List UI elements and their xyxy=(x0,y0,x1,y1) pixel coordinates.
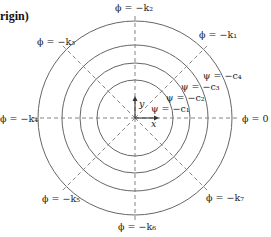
psi-label-4: ψ = −c₄ xyxy=(203,70,242,81)
psi-label-1: ψ = −c₁ xyxy=(151,103,190,114)
x-axis-label: x xyxy=(151,118,157,129)
psi-label-2: ψ = −c₂ xyxy=(166,92,205,103)
phi-label-5: ϕ = −k₅ xyxy=(42,193,80,204)
phi-label-4: ϕ = −k₄ xyxy=(0,113,38,124)
phi-label-7: ϕ = −k₇ xyxy=(206,192,244,203)
psi-label-3: ψ = −c₃ xyxy=(181,81,220,92)
phi-label-2: ϕ = −k₂ xyxy=(115,2,153,13)
y-axis-label: y xyxy=(138,98,145,109)
phi-label-3: ϕ = −k₃ xyxy=(37,36,75,47)
y-arrow-icon xyxy=(133,96,138,101)
phi-label-1: ϕ = −k₁ xyxy=(199,29,237,40)
phi-label-0: ϕ = 0 xyxy=(242,113,269,124)
polar-flow-diagram: ψ = −c₁ψ = −c₂ψ = −c₃ψ = −c₄ϕ = 0ϕ = −k₁… xyxy=(0,0,271,237)
phi-label-6: ϕ = −k₆ xyxy=(118,221,156,232)
